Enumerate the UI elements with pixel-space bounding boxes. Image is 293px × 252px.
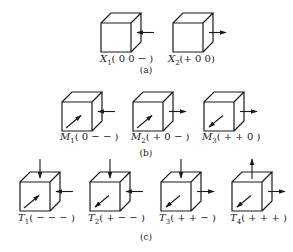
arrow-front-tensile-icon [209,116,223,128]
cube-M3: M3( + + 0 ) [201,92,260,145]
group-a: X1( 0 0 − )X2(+ 0 0)(a) [99,13,226,75]
cube-T1: T1( − − − ) [18,159,75,226]
sign-triplet: (+ 0 0) [180,53,215,64]
sign-triplet: ( − − − ) [29,212,75,223]
arrow-front-tensile-icon [95,196,109,208]
arrow-front-compressive-icon [137,116,152,129]
sign-triplet: ( + 0 − ) [146,131,190,142]
cube-X1: X1( 0 0 − ) [99,13,154,67]
arrow-front-tensile-icon [237,196,251,208]
cube-T3: T3( + + − ) [159,159,216,226]
cube-M1: M1( 0 − − ) [59,92,118,145]
caption-c: (c) [140,232,152,242]
cube-label-X2: X2(+ 0 0) [167,53,215,67]
state-symbol: M [201,131,213,142]
cube-outline [133,92,173,131]
cube-outline [101,13,141,52]
sign-triplet: ( + + + ) [241,212,287,223]
cube-M2: M2( + 0 − ) [130,92,189,145]
cube-outline [62,92,102,131]
cube-label-M3: M3( + + 0 ) [201,131,260,145]
cube-X2: X2(+ 0 0) [167,13,226,67]
cube-T4: T4( + + + ) [230,159,287,226]
caption-a: (a) [140,65,152,75]
arrow-front-compressive-icon [24,196,39,209]
caption-b: (b) [140,148,153,158]
group-b: M1( 0 − − )M2( + 0 − )M3( + + 0 )(b) [59,92,260,158]
cube-label-T4: T4( + + + ) [230,212,287,226]
sign-triplet: ( + − − ) [99,212,145,223]
state-symbol: M [59,131,71,142]
sign-triplet: ( 0 − − ) [75,131,119,142]
sign-triplet: ( + + 0 ) [217,131,261,142]
cube-T2: T2( + − − ) [88,159,145,226]
sign-triplet: ( 0 0 − ) [112,53,154,64]
cube-label-T3: T3( + + − ) [159,212,216,226]
group-c: T1( − − − )T2( + − − )T3( + + − )T4( + +… [18,159,287,242]
cube-label-M1: M1( 0 − − ) [59,131,118,145]
stress-state-cube-diagram: X1( 0 0 − )X2(+ 0 0)(a)M1( 0 − − )M2( + … [0,0,293,252]
state-symbol: M [130,131,142,142]
cube-label-T2: T2( + − − ) [88,212,145,226]
cube-label-T1: T1( − − − ) [18,212,75,226]
figure-groups: X1( 0 0 − )X2(+ 0 0)(a)M1( 0 − − )M2( + … [18,13,287,242]
cube-outline [173,13,213,52]
sign-triplet: ( + + − ) [170,212,216,223]
cube-outline [204,92,244,131]
arrow-front-compressive-icon [66,116,81,129]
cube-label-M2: M2( + 0 − ) [130,131,189,145]
arrow-front-tensile-icon [166,196,180,208]
